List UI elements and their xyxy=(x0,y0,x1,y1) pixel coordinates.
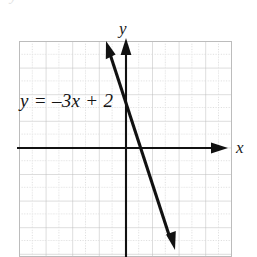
equation-annotation: y = –3x + 2 xyxy=(20,91,113,110)
graph-figure: y = = xyxy=(0,0,257,257)
x-axis xyxy=(17,143,228,154)
x-axis-label: x xyxy=(236,139,244,156)
y-axis-label: y xyxy=(119,20,127,37)
axes-and-line-layer xyxy=(0,0,257,257)
plotted-line-y-equals-minus-3x-plus-2 xyxy=(106,41,176,250)
